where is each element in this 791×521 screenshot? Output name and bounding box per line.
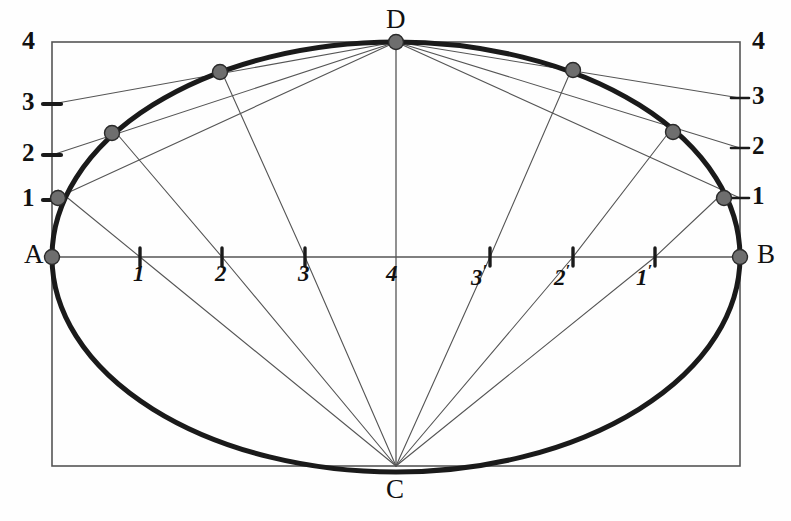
ray-from-C-2 xyxy=(222,257,396,466)
left-axis-tick-label-1: 1 xyxy=(22,185,35,210)
left-axis-label-4: 4 xyxy=(22,28,35,54)
vertex-label-B: B xyxy=(757,241,775,268)
right-axis-tick-label-3: 3 xyxy=(752,83,765,108)
right-axis-tick-label-1: 1 xyxy=(752,183,765,208)
construction-point-p5 xyxy=(566,63,581,78)
ray-from-C-1 xyxy=(140,257,396,466)
h-axis-tick-label-2-prime: 2′ xyxy=(554,262,570,289)
prime-mark: ′ xyxy=(648,261,653,280)
ray-from-C-6 xyxy=(396,257,655,466)
ray-extension-4 xyxy=(490,66,573,257)
construction-point-p6 xyxy=(666,125,681,140)
h-axis-tick-label-1-prime: 1′ xyxy=(636,262,652,289)
h-axis-tick-label-2: 2 xyxy=(215,262,227,285)
tick-digit: 1 xyxy=(636,265,648,290)
right-axis-tick-label-2: 2 xyxy=(752,133,765,158)
h-axis-tick-label-3-prime: 3′ xyxy=(471,262,487,289)
construction-point-p4 xyxy=(389,35,404,50)
vertex-label-D: D xyxy=(386,6,406,33)
vertex-label-A: A xyxy=(24,241,44,268)
ray-extension-1 xyxy=(58,190,140,257)
construction-point-p1 xyxy=(51,191,66,206)
figure-canvas: A B C D 4 3 2 1 4 3 2 1 1 2 3 4 3′ 2′ 1′ xyxy=(0,0,791,521)
h-axis-tick-label-1: 1 xyxy=(133,262,145,285)
h-axis-center-label-4: 4 xyxy=(386,262,398,285)
prime-mark: ′ xyxy=(566,261,571,280)
ray-extension-5 xyxy=(573,127,673,257)
right-axis-label-4: 4 xyxy=(752,28,765,54)
left-axis-tick-label-3: 3 xyxy=(22,89,35,114)
construction-point-p3 xyxy=(213,65,228,80)
construction-point-p7 xyxy=(717,191,732,206)
tick-digit: 3 xyxy=(471,265,483,290)
ray-from-D-5 xyxy=(396,42,740,148)
construction-point-p2 xyxy=(105,126,120,141)
h-axis-tick-label-3: 3 xyxy=(298,262,310,285)
construction-point-p9 xyxy=(45,250,60,265)
ray-from-C-3 xyxy=(305,257,396,466)
ray-extension-3 xyxy=(220,68,305,257)
prime-mark: ′ xyxy=(483,261,488,280)
tick-digit: 2 xyxy=(554,265,566,290)
construction-point-p8 xyxy=(733,250,748,265)
vertex-label-C: C xyxy=(386,476,404,503)
left-axis-tick-label-2: 2 xyxy=(22,140,35,165)
ray-from-D-2 xyxy=(52,42,396,155)
ray-extension-6 xyxy=(655,192,724,257)
